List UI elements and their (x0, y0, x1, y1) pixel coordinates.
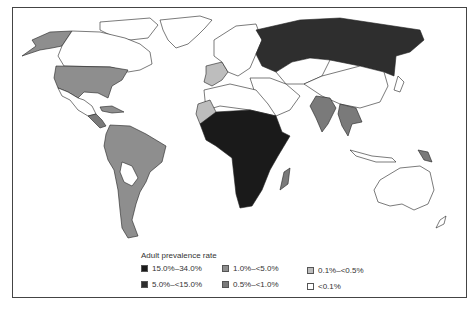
legend-swatch (141, 265, 148, 272)
region-australia (374, 166, 434, 210)
world-map (0, 0, 475, 309)
region-greenland (160, 16, 212, 48)
region-madagascar (280, 168, 290, 190)
legend-swatch (307, 283, 314, 290)
region-central-america (88, 114, 106, 128)
legend-swatch (141, 281, 148, 288)
legend-item-15-34: 15.0%–34.0% (141, 264, 202, 273)
region-new-zealand (436, 216, 446, 228)
legend-swatch (222, 281, 229, 288)
legend-item-0.1-0.5: 0.1%–<0.5% (307, 266, 364, 275)
region-southeast-asia (338, 104, 362, 136)
legend-item-under-0.1: <0.1% (307, 282, 341, 291)
region-indonesia (350, 150, 396, 162)
region-japan (394, 76, 404, 92)
legend-title: Adult prevalence rate (141, 251, 217, 260)
legend-swatch (222, 265, 229, 272)
region-russia (256, 18, 424, 76)
region-india (310, 96, 336, 132)
legend-item-1-5: 1.0%–<5.0% (222, 264, 279, 273)
legend-swatch (307, 267, 314, 274)
region-caribbean (100, 106, 124, 113)
region-sub-saharan-africa (200, 110, 290, 208)
legend-item-0.5-1: 0.5%–<1.0% (222, 280, 279, 289)
region-png (418, 150, 432, 162)
legend-item-5-15: 5.0%–<15.0% (141, 280, 202, 289)
